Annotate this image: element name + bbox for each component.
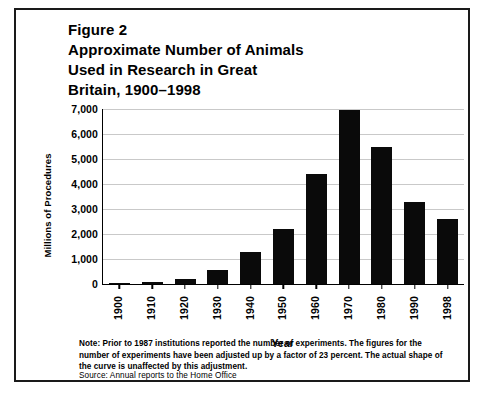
x-axis-tick-mark: [447, 284, 448, 289]
bar-1980[interactable]: [371, 147, 392, 285]
x-axis-tick-mark: [348, 284, 349, 289]
x-tick-slot: 1910: [135, 291, 168, 337]
bar-slot: [169, 109, 202, 284]
bar-slot: [398, 109, 431, 284]
x-axis-tick-labels: 1900191019201930194019501960197019801990…: [102, 291, 463, 337]
bar-slot: [136, 109, 169, 284]
title-line-3: Used in Research in Great: [68, 60, 448, 80]
x-axis-tick-mark: [152, 284, 153, 289]
bar-slot: [201, 109, 234, 284]
x-axis-tick-label: 1900: [112, 296, 124, 320]
x-tick-slot: 1900: [102, 291, 135, 337]
x-axis-tick-mark: [283, 284, 284, 289]
y-axis-tick-labels: 01,0002,0003,0004,0005,0006,0007,000: [42, 109, 98, 284]
x-axis-tick-label: 1970: [342, 296, 354, 320]
bar-1990[interactable]: [404, 202, 425, 285]
x-axis-tick-mark: [119, 284, 120, 289]
bar-slot: [103, 109, 136, 284]
y-axis-tick-label: 3,000: [42, 203, 98, 215]
bar-slot: [431, 109, 464, 284]
figure-source: Source: Annual reports to the Home Offic…: [79, 371, 451, 380]
y-axis-tick-label: 1,000: [42, 253, 98, 265]
y-axis-tick-label: 2,000: [42, 228, 98, 240]
y-axis-tick-label: 5,000: [42, 153, 98, 165]
bar-slot: [300, 109, 333, 284]
bar-slot: [366, 109, 399, 284]
x-tick-slot: 1950: [266, 291, 299, 337]
plot-area: [102, 109, 464, 285]
figure-note: Note: Prior to 1987 institutions reporte…: [79, 338, 451, 373]
x-axis-tick-label: 1960: [309, 296, 321, 320]
bar-1970[interactable]: [339, 110, 360, 284]
x-tick-slot: 1970: [332, 291, 365, 337]
x-tick-slot: 1998: [430, 291, 463, 337]
x-tick-slot: 1920: [168, 291, 201, 337]
x-axis-tick-mark: [414, 284, 415, 289]
x-tick-slot: 1940: [233, 291, 266, 337]
x-axis-tick-mark: [316, 284, 317, 289]
x-axis-tick-label: 1998: [441, 296, 453, 320]
x-axis-tick-label: 1910: [145, 296, 157, 320]
x-axis-tick-label: 1990: [408, 296, 420, 320]
x-axis-tick-mark: [250, 284, 251, 289]
bar-slot: [234, 109, 267, 284]
x-axis-tick-label: 1940: [244, 296, 256, 320]
y-axis-tick-label: 7,000: [42, 103, 98, 115]
x-tick-slot: 1980: [365, 291, 398, 337]
y-axis-tick-label: 6,000: [42, 128, 98, 140]
title-line-1: Figure 2: [68, 20, 448, 40]
y-axis-tick-label: 0: [42, 278, 98, 290]
x-axis-tick-label: 1980: [375, 296, 387, 320]
x-tick-slot: 1990: [397, 291, 430, 337]
x-axis-tick-mark: [184, 284, 185, 289]
x-axis-tick-mark: [217, 284, 218, 289]
x-axis-tick-label: 1930: [211, 296, 223, 320]
y-axis-tick-label: 4,000: [42, 178, 98, 190]
bar-1998[interactable]: [437, 219, 458, 284]
figure-title: Figure 2 Approximate Number of Animals U…: [68, 20, 448, 100]
bar-1950[interactable]: [273, 229, 294, 284]
bar-1940[interactable]: [240, 252, 261, 285]
bar-slot: [333, 109, 366, 284]
figure-frame: Figure 2 Approximate Number of Animals U…: [14, 8, 470, 382]
x-tick-slot: 1930: [200, 291, 233, 337]
bar-1960[interactable]: [306, 174, 327, 284]
x-axis-tick-label: 1920: [178, 296, 190, 320]
x-axis-tick-mark: [381, 284, 382, 289]
bar-slot: [267, 109, 300, 284]
title-line-2: Approximate Number of Animals: [68, 40, 448, 60]
x-axis-tick-label: 1950: [276, 296, 288, 320]
x-tick-slot: 1960: [299, 291, 332, 337]
bar-1930[interactable]: [207, 270, 228, 284]
title-line-4: Britain, 1900–1998: [68, 80, 448, 100]
bar-series: [103, 109, 464, 284]
